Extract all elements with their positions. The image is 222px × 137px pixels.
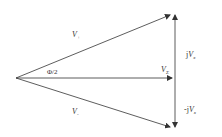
- label-v-sum: VΣ: [161, 65, 169, 75]
- label-jv: jVx: [185, 50, 196, 60]
- phasor-diagram: V+ Φ/2 VΣ V- jVx -jVx: [0, 0, 222, 137]
- label-v-plus: V+: [72, 30, 80, 40]
- vector-v-plus: [16, 15, 170, 78]
- label-v-minus: V-: [72, 107, 79, 117]
- label-angle: Φ/2: [47, 68, 58, 76]
- vector-v-minus: [16, 78, 170, 127]
- label-neg-jv: -jVx: [184, 105, 197, 115]
